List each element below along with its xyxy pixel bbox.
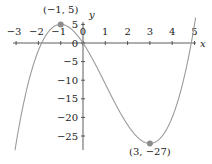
x-tick-label: 0 xyxy=(80,26,86,37)
y-tick-label: −15 xyxy=(57,93,78,104)
y-tick-label: 5 xyxy=(72,19,78,30)
x-tick-label: 1 xyxy=(102,26,108,37)
y-tick-label: −25 xyxy=(57,131,78,142)
function-graph: −3−2−101234550−5−10−15−20−25xy (−1, 5)(3… xyxy=(0,0,212,164)
local-max-point xyxy=(58,21,64,27)
y-tick-label: −20 xyxy=(57,112,78,123)
local-min-label: (3, −27) xyxy=(129,146,171,157)
x-tick-label: 3 xyxy=(147,26,153,37)
local-max-label: (−1, 5) xyxy=(43,4,78,15)
x-tick-label: −3 xyxy=(7,26,22,37)
y-tick-label: −10 xyxy=(57,75,78,86)
x-axis-label: x xyxy=(200,38,206,49)
y-tick-label: −5 xyxy=(63,56,78,67)
x-tick-label: −1 xyxy=(51,26,66,37)
x-tick-label: 4 xyxy=(169,26,175,37)
y-tick-label: 0 xyxy=(72,38,78,49)
axes: −3−2−101234550−5−10−15−20−25xy xyxy=(7,9,206,150)
y-axis-label: y xyxy=(88,9,95,20)
x-tick-label: 2 xyxy=(124,26,130,37)
x-tick-label: −2 xyxy=(29,26,44,37)
function-curve xyxy=(15,18,196,151)
